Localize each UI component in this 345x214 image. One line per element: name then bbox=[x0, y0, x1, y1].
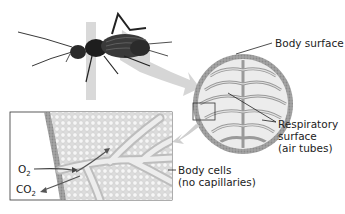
label-co2: CO2 bbox=[16, 183, 36, 200]
respiratory-line3: (air tubes) bbox=[278, 142, 338, 154]
label-o2: O2 bbox=[18, 163, 31, 180]
respiratory-line2: surface bbox=[278, 130, 338, 142]
flow-arrow bbox=[86, 22, 200, 100]
o2-subscript: 2 bbox=[26, 170, 30, 178]
respiratory-line1: Respiratory bbox=[278, 118, 338, 130]
label-body-cells: Body cells (no capillaries) bbox=[178, 164, 256, 188]
co2-text: CO bbox=[16, 183, 32, 195]
label-respiratory-surface: Respiratory surface (air tubes) bbox=[278, 118, 338, 154]
tracheal-system-diagram bbox=[0, 0, 345, 214]
body-cells-line2: (no capillaries) bbox=[178, 176, 256, 188]
label-body-surface: Body surface bbox=[275, 37, 344, 49]
body-cells-line1: Body cells bbox=[178, 164, 256, 176]
co2-subscript: 2 bbox=[32, 190, 36, 198]
zoom-arrow bbox=[172, 124, 200, 144]
